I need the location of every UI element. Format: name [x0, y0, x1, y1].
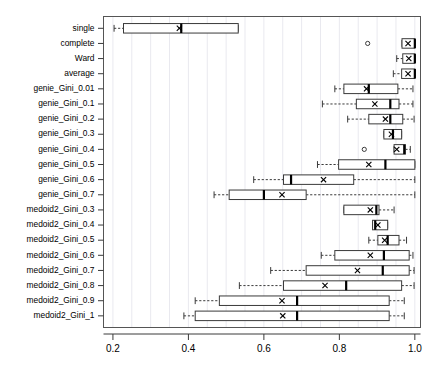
- y-axis-tick-label-9: genie_Gini_0.5: [38, 159, 95, 169]
- boxplot-svg: singlecompleteWardaveragegenie_Gini_0.01…: [0, 0, 435, 369]
- boxplot-series: [114, 24, 415, 321]
- boxplot-item-1: [366, 39, 415, 49]
- y-axis-tick-label-15: medoid2_Gini_0.6: [27, 250, 95, 260]
- box-iqr: [219, 296, 389, 306]
- x-axis-tick-label-3: 0.8: [332, 343, 346, 354]
- x-axis-tick-label-2: 0.6: [257, 343, 271, 354]
- boxplot-item-0: [114, 24, 238, 34]
- boxplot-item-13: [373, 220, 388, 230]
- boxplot-item-4: [335, 84, 413, 94]
- y-axis-tick-label-11: genie_Gini_0.7: [38, 189, 95, 199]
- boxplot-item-8: [362, 145, 410, 155]
- y-axis-tick-label-2: Ward: [75, 53, 95, 63]
- box-iqr: [335, 251, 409, 261]
- y-axis-tick-label-6: genie_Gini_0.2: [38, 113, 95, 123]
- y-axis-tick-label-0: single: [73, 23, 95, 33]
- boxplot-item-11: [214, 190, 415, 200]
- x-axis-tick-label-0: 0.2: [106, 343, 120, 354]
- boxplot-item-17: [239, 281, 414, 291]
- box-iqr: [344, 84, 398, 94]
- box-iqr: [229, 190, 306, 200]
- y-axis-tick-label-7: genie_Gini_0.3: [38, 128, 95, 138]
- y-axis-tick-label-17: medoid2_Gini_0.8: [27, 280, 95, 290]
- box-iqr: [195, 311, 389, 321]
- boxplot-item-7: [384, 129, 402, 139]
- boxplot-item-16: [271, 266, 414, 276]
- y-axis-tick-label-14: medoid2_Gini_0.5: [27, 234, 95, 244]
- box-iqr: [344, 205, 379, 215]
- box-iqr: [284, 175, 354, 185]
- y-axis-tick-label-16: medoid2_Gini_0.7: [27, 265, 95, 275]
- y-axis-tick-label-5: genie_Gini_0.1: [38, 98, 95, 108]
- outlier-point: [362, 147, 366, 151]
- box-iqr: [356, 99, 399, 109]
- x-axis-tick-label-1: 0.4: [181, 343, 195, 354]
- y-axis-tick-label-1: complete: [61, 38, 95, 48]
- boxplot-item-19: [184, 311, 404, 321]
- outlier-point: [366, 41, 370, 45]
- boxplot-item-12: [344, 205, 394, 215]
- y-axis-tick-label-13: medoid2_Gini_0.4: [27, 219, 95, 229]
- box-iqr: [284, 281, 402, 291]
- boxplot-item-9: [317, 160, 414, 170]
- y-axis-labels: singlecompleteWardaveragegenie_Gini_0.01…: [27, 23, 104, 321]
- y-axis-tick-label-10: genie_Gini_0.6: [38, 174, 95, 184]
- x-axis-tick-label-4: 1.0: [408, 343, 422, 354]
- y-axis-tick-label-3: average: [64, 68, 95, 78]
- boxplot-item-3: [393, 69, 415, 79]
- y-axis-tick-label-18: medoid2_Gini_0.9: [27, 295, 95, 305]
- y-axis-tick-label-4: genie_Gini_0.01: [33, 83, 94, 93]
- boxplot-item-18: [195, 296, 404, 306]
- boxplot-item-6: [348, 114, 414, 124]
- boxplot-item-14: [369, 235, 407, 245]
- boxplot-item-5: [322, 99, 413, 109]
- y-axis-tick-label-12: medoid2_Gini_0.3: [27, 204, 95, 214]
- boxplot-chart: singlecompleteWardaveragegenie_Gini_0.01…: [0, 0, 435, 369]
- boxplot-item-10: [254, 175, 415, 185]
- boxplot-item-15: [321, 251, 413, 261]
- y-axis-tick-label-19: medoid2_Gini_1: [34, 310, 95, 320]
- boxplot-item-2: [397, 54, 415, 64]
- x-axis: 0.20.40.60.81.0: [104, 334, 423, 354]
- y-axis-tick-label-8: genie_Gini_0.4: [38, 144, 95, 154]
- box-iqr: [339, 160, 415, 170]
